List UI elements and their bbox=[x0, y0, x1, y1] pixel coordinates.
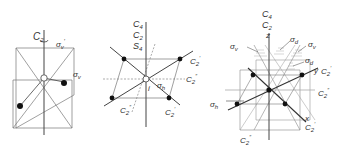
ligand-atom bbox=[17, 103, 23, 109]
central-atom bbox=[266, 87, 271, 92]
ligand-atom bbox=[178, 57, 183, 62]
label-c2-double-prime-bottom: C2″ bbox=[240, 134, 251, 146]
label-s4: S4 bbox=[133, 41, 143, 52]
symmetry-diagram: C2 σv′ σv C4 C2 S4 bbox=[0, 0, 343, 153]
label-c2-double-prime-right: C2″ bbox=[318, 87, 329, 99]
panel-c2v: C2 σv′ σv bbox=[13, 30, 82, 135]
panel-d4h-square: C4 C2 S4 C2′ C2″ σh i C2″ C2′ bbox=[103, 19, 201, 127]
ligand-atom bbox=[251, 73, 256, 78]
ligand-atom bbox=[167, 96, 172, 101]
central-atom bbox=[143, 76, 149, 82]
label-c2: C2 bbox=[133, 30, 144, 41]
ligand-atom bbox=[300, 73, 305, 78]
label-sigma-d-mid: σd bbox=[305, 56, 314, 66]
label-c2-prime-top: C2′ bbox=[190, 55, 201, 67]
ligand-atom bbox=[122, 57, 127, 62]
central-atom bbox=[41, 75, 47, 81]
label-sigma-h: σh bbox=[210, 100, 219, 110]
label-c4: C4 bbox=[262, 9, 273, 20]
label-z: z bbox=[265, 31, 270, 40]
label-sigma-h: σh bbox=[157, 81, 166, 91]
ligand-atom bbox=[110, 96, 115, 101]
label-inversion: i bbox=[148, 84, 150, 93]
label-sigma-v-right: σv bbox=[308, 40, 317, 50]
label-c2-prime-bottom: C2′ bbox=[165, 106, 176, 118]
ligand-atom bbox=[61, 80, 67, 86]
x-axis bbox=[248, 68, 306, 122]
label-c2-prime-x: C2′ bbox=[305, 121, 316, 133]
label-c2: C2 bbox=[33, 31, 44, 43]
label-c2-prime-y: C2′ bbox=[321, 65, 332, 77]
label-c2-double-prime-left: C2″ bbox=[120, 104, 131, 116]
label-y: y bbox=[313, 66, 319, 75]
ligand-atom bbox=[235, 102, 240, 107]
label-x: x bbox=[304, 114, 310, 123]
panel-d4h-planes: C4 C2 z σv σd σv σd y C2′ C2″ σh x C2′ bbox=[210, 9, 332, 146]
label-sigma-v-left: σv bbox=[230, 42, 239, 52]
label-c2-double-prime-right: C2″ bbox=[186, 73, 197, 85]
ligand-atom bbox=[283, 102, 288, 107]
label-c4: C4 bbox=[133, 19, 144, 30]
label-sigma-d-top: σd bbox=[290, 35, 299, 45]
label-c2: C2 bbox=[262, 20, 273, 31]
label-sigma-v: σv bbox=[73, 70, 82, 80]
